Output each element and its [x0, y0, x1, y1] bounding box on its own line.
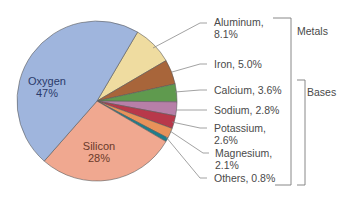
group-label-bases: Bases [307, 86, 336, 98]
leader-potassium [172, 122, 207, 128]
leader-iron [172, 64, 207, 72]
label-magnesium-name: Magnesium, [215, 147, 272, 159]
bracket-metals [273, 18, 291, 185]
label-iron: Iron, 5.0% [214, 58, 262, 70]
label-silicon: Silicon 28% [83, 140, 115, 164]
label-oxygen-name: Oxygen [28, 75, 66, 87]
label-potassium-pct: 2.6% [214, 134, 266, 146]
label-magnesium: Magnesium, 2.1% [215, 147, 272, 171]
label-aluminum: Aluminum, 8.1% [214, 16, 264, 40]
leader-others [166, 137, 207, 178]
label-aluminum-name: Aluminum, [214, 16, 264, 28]
group-label-metals: Metals [297, 25, 328, 37]
leader-calcium [175, 90, 207, 92]
leader-magnesium [170, 131, 209, 153]
label-silicon-name: Silicon [83, 140, 115, 152]
label-others-text: Others, 0.8% [214, 172, 275, 184]
label-sodium: Sodium, 2.8% [214, 104, 279, 116]
label-sodium-text: Sodium, 2.8% [214, 104, 279, 116]
bracket-bases [297, 80, 305, 185]
label-magnesium-pct: 2.1% [215, 159, 272, 171]
label-calcium-text: Calcium, 3.6% [214, 84, 282, 96]
label-others: Others, 0.8% [214, 172, 275, 184]
label-iron-text: Iron, 5.0% [214, 58, 262, 70]
label-oxygen-pct: 47% [28, 87, 66, 99]
label-potassium-name: Potassium, [214, 122, 266, 134]
label-aluminum-pct: 8.1% [214, 28, 264, 40]
label-silicon-pct: 28% [83, 152, 115, 164]
group-brackets [273, 18, 305, 185]
label-potassium: Potassium, 2.6% [214, 122, 266, 146]
label-calcium: Calcium, 3.6% [214, 84, 282, 96]
label-oxygen: Oxygen 47% [28, 75, 66, 99]
leader-aluminum [153, 23, 207, 48]
